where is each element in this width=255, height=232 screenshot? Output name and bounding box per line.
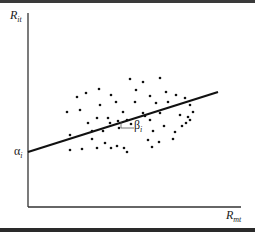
data-point [185,122,188,125]
data-points [66,77,195,154]
data-point [179,114,182,117]
data-point [158,141,161,144]
data-point [110,147,113,150]
slope-label: βi [134,119,142,134]
data-point [115,101,118,104]
data-point [107,117,110,120]
data-point [147,139,150,142]
data-point [184,97,187,100]
data-point [142,112,145,115]
data-point [163,125,166,128]
x-axis-label-sub: mt [233,215,241,224]
data-point [181,125,184,128]
data-point [187,116,190,119]
beta-subscript: i [140,125,142,134]
data-point [102,130,105,133]
data-point [123,147,126,150]
scatter-plot [0,0,255,232]
data-point [116,145,119,148]
x-axis-label: Rmt [226,209,241,224]
y-axis-label: Rit [10,9,22,24]
data-point [175,94,178,97]
data-point [110,94,113,97]
data-point [81,148,84,151]
data-point [79,109,82,112]
data-point [129,78,132,81]
data-point [172,138,175,141]
data-point [189,119,192,122]
data-point [69,149,72,152]
data-point [76,96,79,99]
data-point [98,88,101,91]
data-point [66,111,69,114]
data-point [109,122,112,125]
data-point [99,104,102,107]
data-point [165,91,168,94]
data-point [152,130,155,133]
data-point [96,117,99,120]
data-point [174,131,177,134]
data-point [126,151,129,154]
data-point [189,104,192,107]
data-point [142,81,145,84]
data-point [118,127,121,130]
data-point [134,101,137,104]
data-point [117,120,120,123]
data-point [192,111,195,114]
data-point [155,102,158,105]
data-point [159,77,162,80]
data-point [104,142,107,145]
data-point [91,138,94,141]
data-point [85,92,88,95]
y-axis-label-sub: it [17,15,21,24]
data-point [149,95,152,98]
data-point [122,111,125,114]
intercept-label: αi [14,145,23,160]
data-point [151,146,154,149]
data-point [149,119,152,122]
regression-line [28,92,218,152]
data-point [130,123,133,126]
data-point [167,101,170,104]
data-point [69,134,72,137]
alpha-subscript: i [20,151,22,160]
data-point [96,147,99,150]
data-point [135,89,138,92]
frame-bottom-border [0,228,255,232]
data-point [87,122,90,125]
data-point [159,112,162,115]
